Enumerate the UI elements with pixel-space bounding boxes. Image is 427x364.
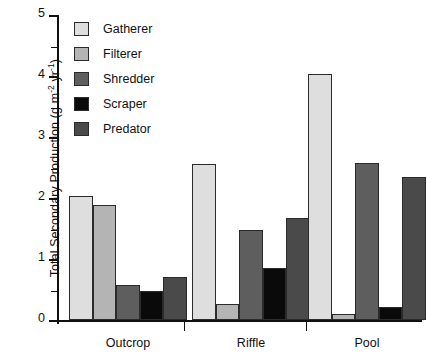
legend-label-scraper: Scraper <box>103 97 147 111</box>
legend-item-shredder: Shredder <box>74 66 224 91</box>
bar-riffle-predator <box>286 218 310 320</box>
bar-pool-predator <box>402 177 426 320</box>
y-tick-minor <box>51 230 57 231</box>
y-tick-major: 5 <box>49 15 57 17</box>
y-tick-major: 0 <box>49 320 57 322</box>
y-tick-label: 3 <box>38 129 45 142</box>
legend-swatch-filterer <box>74 47 89 61</box>
x-tick <box>184 322 185 331</box>
y-tick-minor <box>51 47 57 48</box>
bar-pool-gatherer <box>308 74 332 320</box>
bar-pool-shredder <box>355 163 379 320</box>
legend-swatch-gatherer <box>74 22 89 36</box>
x-axis-line <box>57 320 422 322</box>
legend-label-shredder: Shredder <box>103 72 154 86</box>
y-tick-minor <box>51 291 57 292</box>
legend-label-predator: Predator <box>103 122 151 136</box>
y-tick-label: 4 <box>38 68 45 81</box>
legend-swatch-scraper <box>74 97 89 111</box>
y-tick-minor <box>51 169 57 170</box>
y-tick-major: 1 <box>49 259 57 261</box>
y-tick-minor <box>51 108 57 109</box>
legend-label-gatherer: Gatherer <box>103 22 152 36</box>
bar-pool-filterer <box>332 314 356 320</box>
x-group-label-pool: Pool <box>308 336 426 350</box>
bar-outcrop-shredder <box>116 285 140 320</box>
y-tick-label: 2 <box>38 190 45 203</box>
legend-item-filterer: Filterer <box>74 41 224 66</box>
y-axis-title-exponent-2: -1 <box>46 63 56 71</box>
y-tick-major: 3 <box>49 137 57 139</box>
y-tick-label: 5 <box>38 7 45 20</box>
legend-item-predator: Predator <box>74 116 224 141</box>
bar-outcrop-scraper <box>140 291 164 320</box>
legend-item-scraper: Scraper <box>74 91 224 116</box>
bar-outcrop-predator <box>163 277 187 320</box>
bar-riffle-shredder <box>239 230 263 320</box>
y-tick-major: 4 <box>49 76 57 78</box>
bar-pool-scraper <box>379 307 403 320</box>
bar-outcrop-gatherer <box>69 196 93 320</box>
bar-riffle-gatherer <box>192 164 216 320</box>
bar-riffle-scraper <box>263 268 287 320</box>
legend-item-gatherer: Gatherer <box>74 16 224 41</box>
y-axis-title-exponent-1: -2 <box>46 85 56 93</box>
legend-swatch-shredder <box>74 72 89 86</box>
legend-swatch-predator <box>74 122 89 136</box>
y-tick-label: 0 <box>38 312 45 325</box>
bar-group-pool <box>308 15 426 320</box>
x-group-label-riffle: Riffle <box>192 336 310 350</box>
bar-chart-figure: Total Secondary Production (g m-2 yr-1) … <box>0 0 427 364</box>
legend: GathererFiltererShredderScraperPredator <box>74 16 224 141</box>
y-tick-major: 2 <box>49 198 57 200</box>
x-group-label-outcrop: Outcrop <box>69 336 187 350</box>
bar-riffle-filterer <box>216 304 240 320</box>
legend-label-filterer: Filterer <box>103 47 142 61</box>
bar-outcrop-filterer <box>93 205 117 320</box>
x-tick <box>306 322 307 331</box>
y-tick-label: 1 <box>38 251 45 264</box>
